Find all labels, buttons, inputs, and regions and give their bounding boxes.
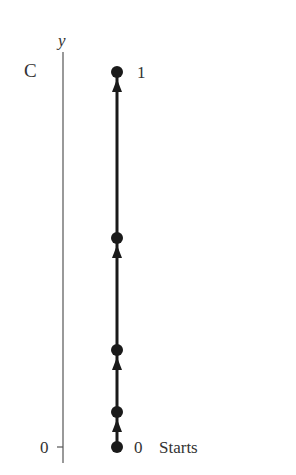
top-point-label: 1 xyxy=(137,64,146,81)
top-label: C xyxy=(24,61,37,80)
axis-label: y xyxy=(58,32,66,49)
start-label: Starts xyxy=(159,439,198,456)
zero-tick-label: 0 xyxy=(40,439,49,456)
diagram-canvas xyxy=(0,0,296,475)
bottom-point-label: 0 xyxy=(134,439,143,456)
